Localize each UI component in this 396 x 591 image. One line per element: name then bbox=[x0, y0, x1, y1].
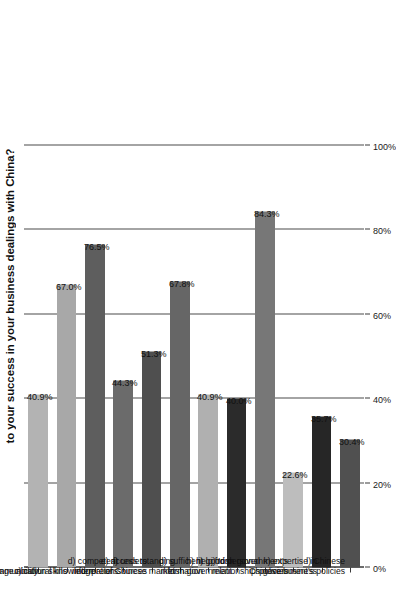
bar-row bbox=[85, 145, 105, 567]
value-tick-mark bbox=[365, 566, 370, 567]
value-axis-label: 0% bbox=[373, 563, 386, 573]
bar[interactable] bbox=[28, 394, 48, 567]
bar[interactable] bbox=[57, 284, 77, 567]
bar-value-label: 22.6% bbox=[282, 469, 308, 479]
bar[interactable] bbox=[170, 281, 190, 567]
bar-row bbox=[227, 145, 247, 567]
bar-row bbox=[28, 145, 48, 567]
bar[interactable] bbox=[312, 416, 332, 567]
bar-row bbox=[283, 145, 303, 567]
category-axis-label: l) Chinese government's policies bbox=[263, 557, 345, 576]
bar[interactable] bbox=[227, 398, 247, 567]
bar-row bbox=[198, 145, 218, 567]
bar-value-label: 51.3% bbox=[141, 348, 167, 358]
value-axis-label: 60% bbox=[373, 310, 391, 320]
bar-value-label: 44.3% bbox=[112, 377, 138, 387]
bar-value-label: 40.9% bbox=[27, 391, 53, 401]
plot-region: 0%20%40%60%80%100%40.9%a) language abili… bbox=[24, 145, 364, 567]
value-tick-mark bbox=[365, 144, 370, 145]
bar[interactable] bbox=[113, 380, 133, 567]
bar[interactable] bbox=[198, 394, 218, 567]
value-tick-mark bbox=[365, 228, 370, 229]
bar-value-label: 35.7% bbox=[311, 413, 337, 423]
bar[interactable] bbox=[340, 439, 360, 567]
bar-value-label: 30.4% bbox=[339, 436, 365, 446]
bar-value-label: 76.5% bbox=[84, 241, 110, 251]
chart-title: to your success in your business dealing… bbox=[4, 0, 16, 591]
value-axis-label: 40% bbox=[373, 394, 391, 404]
bar-value-label: 67.8% bbox=[169, 278, 195, 288]
bar-value-label: 84.3% bbox=[254, 208, 280, 218]
plot-area: 0%20%40%60%80%100%40.9%a) language abili… bbox=[24, 145, 364, 567]
value-tick-mark bbox=[365, 313, 370, 314]
value-axis-label: 20% bbox=[373, 479, 391, 489]
bar-row bbox=[340, 145, 360, 567]
bar-value-label: 67.0% bbox=[56, 281, 82, 291]
bar-row bbox=[170, 145, 190, 567]
bar-row bbox=[57, 145, 77, 567]
category-tick-mark bbox=[350, 567, 351, 572]
value-tick-mark bbox=[365, 482, 370, 483]
value-axis-label: 80% bbox=[373, 225, 391, 235]
bar[interactable] bbox=[255, 211, 275, 567]
bar-value-label: 40.0% bbox=[226, 395, 252, 405]
value-tick-mark bbox=[365, 397, 370, 398]
bar[interactable] bbox=[283, 472, 303, 567]
bar[interactable] bbox=[142, 351, 162, 567]
bar-value-label: 40.9% bbox=[197, 391, 223, 401]
bar[interactable] bbox=[85, 244, 105, 567]
value-axis-label: 100% bbox=[373, 141, 396, 151]
bar-row bbox=[312, 145, 332, 567]
bar-row bbox=[113, 145, 133, 567]
